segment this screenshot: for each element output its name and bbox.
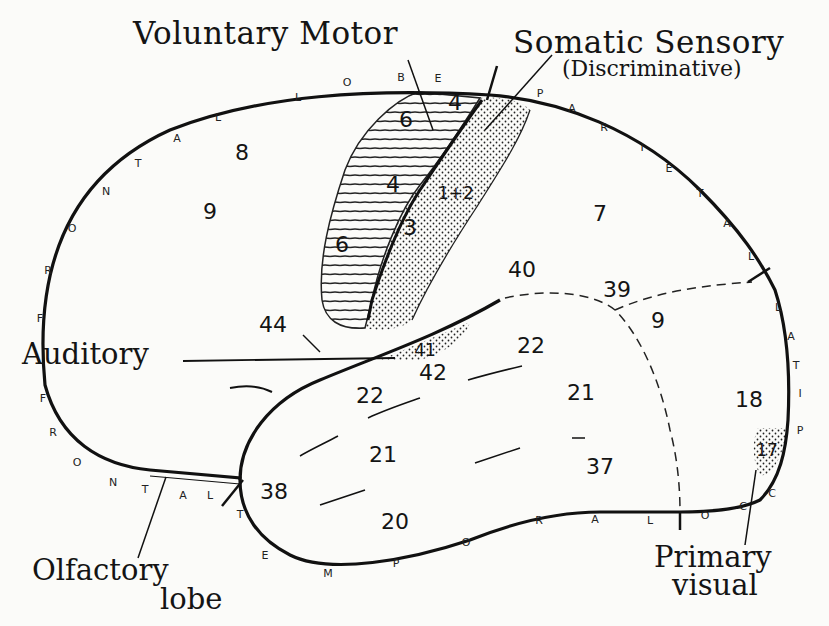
lobe-letter: M — [323, 568, 333, 579]
lobe-letter: N — [102, 186, 110, 197]
brain-diagram: Voluntary Motor Somatic Sensory (Discrim… — [0, 0, 829, 626]
lobe-letter: L — [647, 515, 653, 526]
somatic-sensory-label: Somatic Sensory — [513, 27, 784, 58]
area-22-right: 22 — [517, 335, 545, 357]
lobe-letter: O — [462, 537, 471, 548]
area-44: 44 — [259, 314, 287, 336]
lobe-letter: A — [568, 103, 576, 114]
lobe-letter: A — [787, 331, 795, 342]
lobe-letter: A — [173, 133, 181, 144]
lobe-letter: C — [768, 488, 776, 499]
area-8: 8 — [235, 142, 249, 164]
area-37: 37 — [586, 456, 614, 478]
area-6-upper: 6 — [399, 109, 413, 131]
area-17: 17 — [756, 442, 778, 459]
lobe-letter: T — [697, 188, 704, 199]
lobe-letter: B — [397, 72, 405, 83]
area-42: 42 — [419, 362, 447, 384]
lobe-letter: T — [237, 509, 244, 520]
area-4-lower: 4 — [386, 174, 400, 196]
area-7: 7 — [593, 203, 607, 225]
area-18: 18 — [735, 389, 763, 411]
area-21-left: 21 — [369, 444, 397, 466]
area-6-lower: 6 — [335, 234, 349, 256]
lobe-letter: I — [798, 388, 801, 399]
lobe-letter: L — [748, 251, 754, 262]
area-40: 40 — [508, 259, 536, 281]
lobe-letter: A — [591, 514, 599, 525]
area-3: 3 — [403, 217, 417, 239]
lobe-letter: L — [207, 490, 213, 501]
lobe-letter: P — [393, 558, 400, 569]
lobe-letter: A — [179, 490, 187, 501]
lobe-letter: O — [701, 510, 710, 521]
lobe-letter: O — [73, 457, 82, 468]
lobe-letter: T — [135, 158, 142, 169]
area-41: 41 — [414, 342, 436, 359]
lobe-letter: R — [600, 122, 608, 133]
area-9-occipital: 9 — [651, 310, 665, 332]
lobe-letter: E — [435, 73, 442, 84]
lobe-letter: O — [68, 223, 77, 234]
lobe-letter: L — [215, 112, 221, 123]
lobe-letter: C — [739, 501, 747, 512]
area-9-frontal: 9 — [203, 201, 217, 223]
lobe-letter: A — [723, 218, 731, 229]
lobe-letter: R — [44, 265, 52, 276]
lobe-letter: F — [37, 313, 43, 324]
lobe-letter: F — [40, 393, 46, 404]
lobe-letter: N — [109, 477, 117, 488]
area-21-right: 21 — [567, 382, 595, 404]
olfactory-lobe-label-line2: lobe — [160, 585, 222, 614]
lobe-letter: P — [537, 88, 544, 99]
lobe-letter: O — [343, 77, 352, 88]
primary-visual-label-line2: visual — [672, 571, 758, 600]
olfactory-lobe-label-line1: Olfactory — [32, 556, 169, 585]
lobe-letter: E — [262, 550, 269, 561]
auditory-label: Auditory — [22, 340, 149, 369]
area-20: 20 — [381, 511, 409, 533]
discriminative-label: (Discriminative) — [562, 58, 742, 80]
area-39: 39 — [603, 279, 631, 301]
lobe-letter: L — [295, 92, 301, 103]
voluntary-motor-label: Voluntary Motor — [133, 18, 398, 49]
lobe-letter: T — [793, 360, 800, 371]
lobe-letter: R — [535, 515, 543, 526]
lobe-letter: L — [775, 302, 781, 313]
brain-outline-drawing — [0, 0, 829, 626]
area-4-upper: 4 — [448, 92, 462, 114]
lobe-letter: P — [797, 425, 804, 436]
lobe-letter: I — [640, 142, 643, 153]
lobe-letter: R — [49, 427, 57, 438]
area-1-2: 1+2 — [438, 185, 474, 202]
lobe-letter: T — [142, 484, 149, 495]
area-38: 38 — [260, 481, 288, 503]
lobe-letter: E — [666, 163, 673, 174]
area-22-left: 22 — [356, 385, 384, 407]
